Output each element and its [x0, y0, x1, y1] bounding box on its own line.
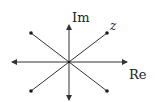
point-z-label: z [109, 19, 117, 33]
ray-to-z [69, 33, 107, 62]
ray-lower-right [69, 62, 107, 91]
ray-lower-left [31, 62, 69, 91]
point-z-dot [105, 31, 109, 35]
point-lower-left-dot [29, 89, 33, 93]
point-lower-right-dot [105, 89, 109, 93]
ray-upper-left [31, 33, 69, 62]
origin-dot [68, 61, 71, 64]
real-axis-label: Re [129, 67, 147, 82]
imaginary-axis-label: Im [72, 10, 89, 25]
point-upper-left-dot [29, 31, 33, 35]
complex-plane-diagram: Im z Re [0, 0, 155, 102]
